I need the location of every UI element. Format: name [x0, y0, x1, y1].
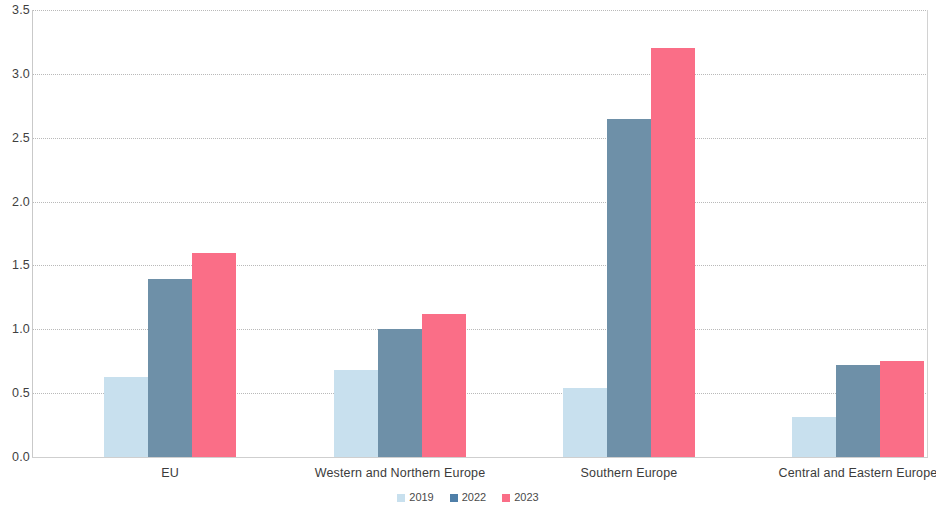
bar-2023-central-and-eastern-europe[interactable]: [880, 361, 924, 457]
chart-legend: 201920222023: [0, 492, 936, 503]
y-axis-tick-label: 3.5: [2, 4, 30, 17]
legend-item-2022[interactable]: 2022: [450, 492, 486, 503]
x-axis-line: [32, 457, 928, 458]
y-axis-tick-label: 3.0: [2, 68, 30, 81]
y-axis-tick-label: 0.0: [2, 451, 30, 464]
legend-label: 2019: [409, 492, 433, 503]
y-axis-tick-label: 1.5: [2, 259, 30, 272]
bar-group: [792, 10, 924, 457]
bar-2023-southern-europe[interactable]: [651, 48, 695, 457]
legend-label: 2022: [462, 492, 486, 503]
bar-2019-western-and-northern-europe[interactable]: [334, 370, 378, 457]
bar-2019-central-and-eastern-europe[interactable]: [792, 417, 836, 457]
bar-2022-eu[interactable]: [148, 279, 192, 457]
bar-2023-eu[interactable]: [192, 253, 236, 457]
plot-area: [32, 10, 928, 457]
x-axis-category-label: Western and Northern Europe: [315, 466, 486, 480]
y-axis-tick-label: 1.0: [2, 323, 30, 336]
x-axis-category-label: Southern Europe: [581, 466, 678, 480]
legend-swatch-icon: [450, 494, 458, 502]
bar-2023-western-and-northern-europe[interactable]: [422, 314, 466, 457]
legend-item-2019[interactable]: 2019: [397, 492, 433, 503]
y-axis-line: [32, 10, 33, 458]
legend-swatch-icon: [502, 494, 510, 502]
right-axis-line: [927, 10, 928, 458]
y-axis-tick-labels: 0.00.51.01.52.02.53.03.5: [0, 10, 30, 458]
bar-chart: 0.00.51.01.52.02.53.03.5 EUWestern and N…: [0, 0, 936, 512]
bar-2019-southern-europe[interactable]: [563, 388, 607, 457]
legend-item-2023[interactable]: 2023: [502, 492, 538, 503]
x-axis-category-label: Central and Eastern Europe: [779, 466, 936, 480]
legend-label: 2023: [514, 492, 538, 503]
y-axis-tick-label: 2.0: [2, 195, 30, 208]
bar-2022-western-and-northern-europe[interactable]: [378, 329, 422, 457]
x-axis-category-label: EU: [161, 466, 179, 480]
bar-group: [334, 10, 466, 457]
bar-2022-southern-europe[interactable]: [607, 119, 651, 457]
bar-group: [563, 10, 695, 457]
bar-2019-eu[interactable]: [104, 377, 148, 457]
bar-group: [104, 10, 236, 457]
legend-swatch-icon: [397, 494, 405, 502]
bar-2022-central-and-eastern-europe[interactable]: [836, 365, 880, 457]
y-axis-tick-label: 2.5: [2, 131, 30, 144]
y-axis-tick-label: 0.5: [2, 387, 30, 400]
